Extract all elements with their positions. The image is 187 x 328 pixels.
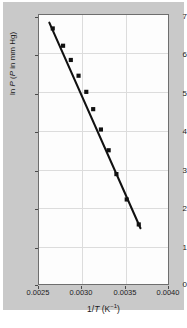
plot-area — [38, 14, 169, 285]
y-axis-label: ln P (P in mm Hg) — [8, 0, 18, 95]
data-point — [137, 222, 141, 226]
y-axis-label-italic-p2: P — [8, 71, 17, 76]
chart-figure: 7 6 5 4 3 2 1 0 0.0025 0.0030 0.0035 0.0… — [0, 0, 187, 328]
y-axis-label-italic-p1: P — [8, 81, 17, 86]
x-tick-label: 0.0030 — [63, 289, 99, 297]
x-axis-label-unit: (K — [99, 304, 110, 314]
x-tick-label: 0.0040 — [150, 289, 186, 297]
data-point — [99, 127, 103, 131]
data-point — [114, 172, 118, 176]
data-series-plot — [39, 15, 168, 284]
x-axis-label-tail: ) — [117, 304, 120, 314]
x-axis-label: 1/T (K−1) — [38, 303, 169, 314]
data-point — [91, 107, 95, 111]
data-point — [51, 26, 55, 30]
x-tick-label: 0.0025 — [20, 289, 56, 297]
data-point — [69, 58, 73, 62]
data-point — [107, 148, 111, 152]
y-axis-label-suffix: in mm Hg) — [8, 32, 17, 71]
data-point — [76, 74, 80, 78]
x-tick-label: 0.0035 — [107, 289, 143, 297]
y-axis-label-prefix: ln — [8, 87, 17, 95]
data-point — [125, 197, 129, 201]
y-axis-label-mid: ( — [8, 76, 17, 81]
data-point — [84, 90, 88, 94]
data-point — [61, 44, 65, 48]
